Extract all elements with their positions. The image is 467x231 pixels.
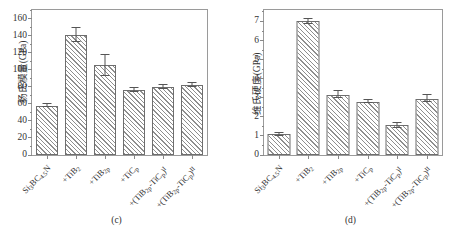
- error-cap-top: [334, 90, 343, 91]
- y-tick-mark: [260, 116, 264, 117]
- y-tick-mark-minor: [262, 50, 265, 51]
- y-tick-mark: [28, 18, 32, 19]
- x-tick-mark: [368, 155, 369, 159]
- y-tick-label: 120: [13, 46, 27, 59]
- bar[interactable]: [356, 102, 379, 155]
- y-tick-mark-minor: [262, 126, 265, 127]
- bar[interactable]: [386, 125, 409, 155]
- error-cap-top: [100, 54, 109, 55]
- x-tick-mark: [105, 155, 106, 159]
- y-tick-label: 2: [254, 110, 259, 123]
- bar-slot: [323, 10, 353, 155]
- bar[interactable]: [181, 85, 203, 155]
- plot-area-c: 020406080100120140160: [31, 9, 208, 156]
- bars-container-c: [32, 10, 207, 155]
- error-cap-top: [159, 84, 168, 85]
- y-tick-mark: [260, 97, 264, 98]
- error-cap-bottom: [42, 106, 51, 107]
- error-cap-bottom: [274, 135, 283, 136]
- y-tick-mark-minor: [30, 129, 33, 130]
- y-tick-mark: [28, 52, 32, 53]
- bar-slot: [264, 10, 294, 155]
- error-cap-bottom: [71, 41, 80, 42]
- bar[interactable]: [65, 35, 87, 155]
- y-tick-mark: [260, 155, 264, 156]
- error-cap-bottom: [188, 86, 197, 87]
- x-tick-mark: [47, 155, 48, 159]
- y-tick-mark-minor: [30, 78, 33, 79]
- bars-container-d: [264, 10, 442, 155]
- y-tick-label: 4: [254, 72, 259, 85]
- bar[interactable]: [36, 106, 58, 155]
- bar[interactable]: [123, 90, 145, 155]
- x-tick-mark: [163, 155, 164, 159]
- y-tick-mark-minor: [30, 61, 33, 62]
- bar-slot: [32, 10, 61, 155]
- error-cap-top: [71, 27, 80, 28]
- y-tick-mark-minor: [262, 69, 265, 70]
- error-cap-bottom: [304, 23, 313, 24]
- x-tick-mark: [134, 155, 135, 159]
- y-tick-mark: [260, 78, 264, 79]
- y-tick-mark-minor: [30, 10, 33, 11]
- error-cap-bottom: [159, 88, 168, 89]
- y-tick-mark-minor: [30, 146, 33, 147]
- bar[interactable]: [297, 21, 320, 155]
- y-tick-label: 5: [254, 53, 259, 66]
- bar[interactable]: [416, 99, 439, 155]
- bar-slot: [383, 10, 413, 155]
- y-tick-mark-minor: [262, 145, 265, 146]
- bar-slot: [178, 10, 207, 155]
- y-tick-label: 160: [13, 12, 27, 25]
- y-tick-label: 7: [254, 14, 259, 27]
- y-tick-label: 3: [254, 91, 259, 104]
- y-tick-mark-minor: [262, 31, 265, 32]
- x-tick-mark: [76, 155, 77, 159]
- y-tick-mark: [260, 21, 264, 22]
- y-tick-label: 0: [254, 148, 259, 161]
- error-bar: [104, 55, 105, 75]
- y-tick-mark: [28, 155, 32, 156]
- x-tick-mark: [338, 155, 339, 159]
- y-tick-label: 80: [18, 80, 28, 93]
- error-cap-bottom: [130, 91, 139, 92]
- error-cap-top: [188, 82, 197, 83]
- x-tick-mark: [308, 155, 309, 159]
- bar[interactable]: [327, 95, 350, 155]
- y-tick-label: 0: [22, 148, 27, 161]
- x-tick-mark: [427, 155, 428, 159]
- bar-slot: [412, 10, 442, 155]
- y-tick-mark: [260, 135, 264, 136]
- bar[interactable]: [94, 65, 116, 155]
- error-cap-top: [393, 122, 402, 123]
- y-tick-mark-minor: [262, 88, 265, 89]
- caption-c: (c): [0, 215, 233, 225]
- y-tick-mark-minor: [30, 44, 33, 45]
- bar-slot: [120, 10, 149, 155]
- error-cap-top: [304, 18, 313, 19]
- y-tick-mark-minor: [262, 107, 265, 108]
- y-tick-mark: [28, 120, 32, 121]
- y-tick-mark-minor: [30, 95, 33, 96]
- error-cap-bottom: [334, 97, 343, 98]
- y-tick-mark: [28, 103, 32, 104]
- y-tick-mark-minor: [262, 11, 265, 12]
- bar-slot: [294, 10, 324, 155]
- y-tick-mark: [260, 59, 264, 60]
- y-tick-mark-minor: [30, 112, 33, 113]
- error-cap-bottom: [423, 101, 432, 102]
- plot-area-d: 01234567: [263, 9, 443, 156]
- y-tick-label: 40: [18, 114, 28, 127]
- bar[interactable]: [152, 87, 174, 155]
- bar[interactable]: [267, 134, 290, 155]
- error-cap-top: [423, 94, 432, 95]
- bar-slot: [149, 10, 178, 155]
- y-tick-mark-minor: [30, 27, 33, 28]
- y-tick-label: 1: [254, 129, 259, 142]
- x-tick-mark: [279, 155, 280, 159]
- y-tick-label: 140: [13, 29, 27, 42]
- error-cap-bottom: [100, 75, 109, 76]
- figure-panels-c-d: 杨氏模量(GPa) 020406080100120140160 Si3BC4.5…: [0, 0, 467, 231]
- panel-c: 杨氏模量(GPa) 020406080100120140160 Si3BC4.5…: [0, 0, 233, 231]
- y-tick-mark: [28, 137, 32, 138]
